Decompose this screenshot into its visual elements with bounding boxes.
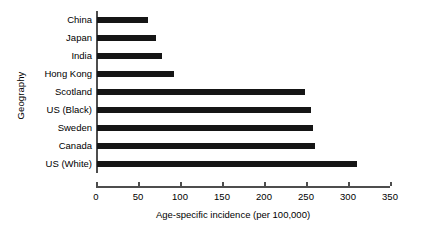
x-axis-title: Age-specific incidence (per 100,000) xyxy=(0,209,424,220)
x-axis-tick-label: 0 xyxy=(93,191,98,202)
x-axis-tick xyxy=(180,182,182,186)
x-axis-tick-label: 300 xyxy=(340,191,356,202)
bar-chart-figure: Geography ChinaJapanIndiaHong KongScotla… xyxy=(0,0,424,238)
y-axis-tick-label: Hong Kong xyxy=(30,69,92,79)
y-axis-tick-label: Scotland xyxy=(30,87,92,97)
x-axis-tick-label: 100 xyxy=(172,191,188,202)
plot-area xyxy=(96,11,390,173)
y-axis-tick-label: India xyxy=(30,51,92,61)
y-axis-title: Geography xyxy=(10,0,32,190)
bar xyxy=(97,35,156,41)
x-axis-tick-label: 50 xyxy=(133,191,144,202)
y-axis-tick-label: Japan xyxy=(30,33,92,43)
x-axis-tick xyxy=(348,182,350,186)
x-axis-tick-label: 200 xyxy=(256,191,272,202)
bar xyxy=(97,143,315,149)
y-axis-tick-labels: ChinaJapanIndiaHong KongScotlandUS (Blac… xyxy=(30,11,92,173)
bar xyxy=(97,17,148,23)
y-axis-tick-label: US (Black) xyxy=(30,105,92,115)
y-axis-title-text: Geography xyxy=(16,71,27,119)
x-axis-tick xyxy=(390,182,392,186)
y-axis-tick-label: Sweden xyxy=(30,123,92,133)
bar xyxy=(97,125,313,131)
x-axis-tick xyxy=(222,182,224,186)
bar xyxy=(97,107,311,113)
x-axis-tick xyxy=(306,182,308,186)
bar xyxy=(97,89,305,95)
x-axis-tick-label: 250 xyxy=(298,191,314,202)
y-axis-tick-label: China xyxy=(30,15,92,25)
y-axis-tick-label: US (White) xyxy=(30,159,92,169)
y-axis-tick-label: Canada xyxy=(30,141,92,151)
bar xyxy=(97,71,174,77)
x-axis-tick xyxy=(138,182,140,186)
x-axis-tick-label: 150 xyxy=(214,191,230,202)
bar xyxy=(97,161,357,167)
x-axis-tick xyxy=(96,182,98,186)
x-axis-line: 050100150200250300350 xyxy=(96,186,390,188)
x-axis-tick-label: 350 xyxy=(382,191,398,202)
x-axis-tick xyxy=(264,182,266,186)
bar xyxy=(97,53,162,59)
x-axis-title-text: Age-specific incidence (per 100,000) xyxy=(114,209,310,220)
